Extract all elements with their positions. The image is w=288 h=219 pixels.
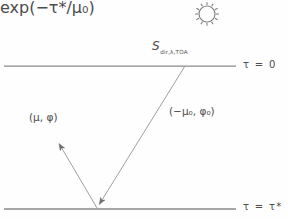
radiative-transfer-diagram: Sdir,λ,TOA τ = 0 τ = τ* (−μ₀, φ₀) (μ, φ)… — [0, 0, 288, 219]
source-subscript: dir,λ,TOA — [160, 49, 188, 55]
outgoing-direction-label: (μ, φ) — [29, 112, 57, 123]
diagram-canvas — [0, 0, 288, 219]
source-symbol: S — [152, 39, 160, 53]
tau-top-label: τ = 0 — [243, 60, 277, 70]
reflected-upward-beam — [59, 144, 97, 208]
source-term-label: Sdir,λ,TOA — [152, 40, 187, 52]
transmittance-label: exp(−τ*/μ₀) — [0, 0, 95, 16]
incoming-solar-beam — [99, 66, 185, 204]
tau-bottom-label: τ = τ* — [243, 202, 283, 212]
sun-icon — [195, 2, 219, 26]
incoming-direction-label: (−μ₀, φ₀) — [169, 106, 215, 117]
